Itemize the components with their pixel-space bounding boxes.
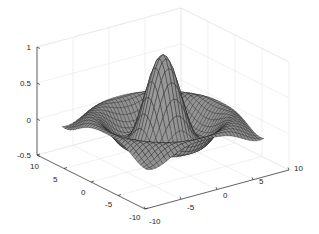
y-tick-label: -10 [129,213,141,222]
x-tick-label: 10 [294,164,303,173]
z-tick-label: 1 [27,43,32,52]
y-tick-label: -5 [105,200,113,209]
y-tick-label: 0 [81,188,86,197]
surface-plot: 1 0.5 0 -0.5 10 5 0 -5 -10 -10 -5 0 5 10 [0,0,319,234]
x-tick-label: 5 [259,177,264,186]
x-tick-label: -10 [149,217,161,226]
z-tick-label: -0.5 [17,151,31,160]
sinc-surface [62,55,264,170]
y-tick-label: 5 [53,175,58,184]
z-tick-label: 0.5 [20,79,32,88]
z-axis-tick-labels: 1 0.5 0 -0.5 [17,43,31,160]
x-tick-label: 0 [223,191,228,200]
z-tick-label: 0 [27,116,32,125]
y-tick-label: 10 [30,162,39,171]
x-tick-label: -5 [187,203,195,212]
